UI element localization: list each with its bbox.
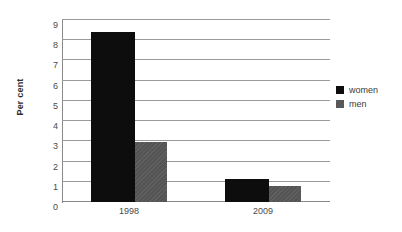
y-axis-title: Per cent: [15, 62, 25, 132]
bar-women-1998: [91, 32, 135, 202]
x-tick-label-1998: 1998: [119, 206, 139, 216]
legend-swatch-men: [336, 100, 344, 108]
bar-women-2009: [225, 179, 269, 202]
legend-item-men[interactable]: men: [336, 99, 398, 109]
legend-label-women: women: [349, 85, 378, 95]
x-tick-label-2009: 2009: [253, 206, 273, 216]
legend-item-women[interactable]: women: [336, 85, 398, 95]
bar-men-2009: [269, 186, 301, 202]
bars: [62, 20, 330, 202]
bar-men-1998: [135, 142, 167, 202]
plot-area: [62, 20, 330, 202]
y-axis-tick-labels: 0123456789: [34, 20, 58, 202]
bar-chart: Per cent 0123456789 19982009 womenmen: [0, 0, 402, 232]
x-axis-tick-labels: 19982009: [62, 206, 330, 224]
legend-swatch-women: [336, 86, 344, 94]
legend-label-men: men: [349, 99, 367, 109]
chart-legend: womenmen: [336, 85, 398, 113]
